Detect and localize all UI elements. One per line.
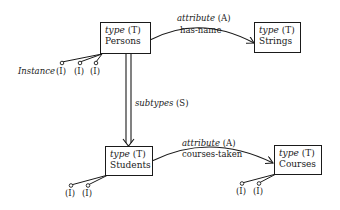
persons-instance-1: (I) — [56, 66, 66, 76]
type-kind: type — [279, 148, 299, 158]
type-code: (T) — [133, 149, 146, 159]
type-code: (T) — [282, 25, 295, 35]
students-instance-1: (I) — [65, 188, 75, 198]
courses-instance-1: (I) — [236, 186, 246, 196]
instance-legend-label: Instance — [18, 66, 55, 76]
type-kind: type — [110, 149, 130, 159]
type-node-strings: type (T) Strings — [254, 22, 301, 53]
courses-taken-edge-name: courses-taken — [182, 149, 242, 159]
edge-kind: attribute — [177, 13, 215, 23]
edge-kind: subtypes — [135, 98, 173, 108]
edge-code: (S) — [176, 98, 188, 108]
type-name: Strings — [259, 36, 296, 47]
type-node-persons: type (T) Persons — [100, 22, 151, 54]
type-name: Students — [110, 160, 148, 171]
has-name-edge-label: attribute (A) — [177, 13, 231, 23]
type-name: Courses — [279, 159, 317, 170]
type-kind: type — [259, 25, 279, 35]
has-name-edge-name: has-name — [180, 25, 221, 35]
type-name: Persons — [105, 36, 146, 47]
type-code: (T) — [302, 148, 315, 158]
type-node-students: type (T) Students — [105, 146, 153, 176]
persons-instance-2: (I) — [74, 66, 84, 76]
persons-instance-3: (I) — [90, 66, 100, 76]
edge-code: (A) — [223, 138, 236, 148]
type-node-courses: type (T) Courses — [274, 145, 322, 175]
subtypes-arrowhead — [123, 139, 134, 146]
edge-code: (A) — [218, 13, 231, 23]
students-instance-2: (I) — [82, 188, 92, 198]
courses-instance-2: (I) — [253, 186, 263, 196]
subtypes-edge-label: subtypes (S) — [135, 98, 189, 108]
type-kind: type — [105, 25, 125, 35]
instance-label-text: Instance — [18, 66, 55, 76]
courses-taken-edge-label: attribute (A) — [182, 138, 236, 148]
edge-kind: attribute — [182, 138, 220, 148]
type-code: (T) — [128, 25, 141, 35]
